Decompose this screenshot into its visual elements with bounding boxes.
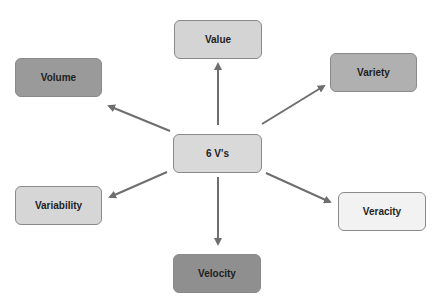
arrow-to-volume — [109, 106, 170, 131]
node-velocity-label: Velocity — [198, 268, 236, 279]
node-variety: Variety — [330, 53, 417, 92]
node-volume: Volume — [15, 58, 102, 97]
arrow-to-variability — [110, 172, 167, 197]
node-volume-label: Volume — [41, 72, 76, 83]
node-variety-label: Variety — [357, 67, 390, 78]
node-center-label: 6 V's — [206, 148, 229, 159]
node-variability: Variability — [15, 186, 102, 225]
arrow-to-veracity — [266, 173, 330, 202]
node-value: Value — [174, 20, 262, 59]
node-veracity: Veracity — [338, 192, 426, 231]
arrow-to-variety — [262, 86, 324, 124]
node-variability-label: Variability — [35, 200, 82, 211]
node-veracity-label: Veracity — [363, 206, 401, 217]
node-value-label: Value — [205, 34, 231, 45]
node-velocity: Velocity — [173, 254, 261, 293]
node-center: 6 V's — [173, 134, 262, 173]
